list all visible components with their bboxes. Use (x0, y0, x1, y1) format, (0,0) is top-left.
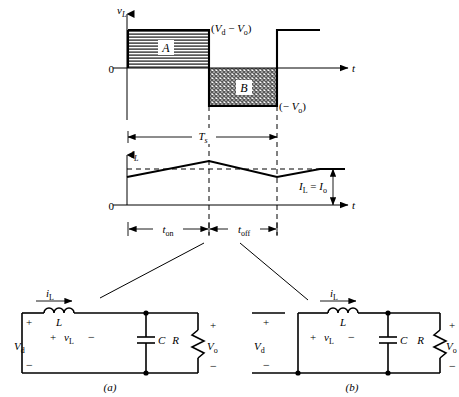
circuit-b-source-label: Vd (254, 340, 265, 355)
panel-inductor-current: Ts iL t 0 IL = Io (109, 128, 357, 238)
circuit-a-capacitor-label: C (158, 334, 166, 346)
circuit-b-resistor-label: R (416, 334, 424, 346)
circuit-b-vl-plus: + (310, 331, 316, 343)
voltage-axis-label-sub: L (121, 10, 127, 19)
area-a-label-group: A (158, 40, 174, 55)
circuit-a-output-plus: + (210, 319, 216, 331)
ton-label-group: ton (153, 221, 183, 238)
circuit-b-vl-label: vL (324, 331, 334, 346)
panel-inductor-voltage: vL t 0 (Vd − Vo) (− Vo) A B (109, 4, 357, 120)
circuit-a-caption: (a) (104, 381, 117, 394)
current-axis-label-sub: L (133, 154, 139, 163)
circuit-b-output-minus: − (449, 359, 456, 373)
circuit-b-vl-minus: − (348, 330, 355, 344)
circuit-b-source-plus: + (263, 316, 269, 328)
figure-svg: vL t 0 (Vd − Vo) (− Vo) A B (0, 0, 459, 397)
circuit-a-resistor-zigzag (192, 330, 204, 358)
circuit-b-source-minus: − (263, 358, 270, 372)
circuit-a-inductor-coil (44, 308, 74, 313)
voltage-axis-label: vL (117, 4, 127, 19)
leader-line-to-circuit-a (100, 243, 204, 298)
circuit-b-caption: (b) (346, 381, 359, 394)
circuit-a-current-label: iL (46, 287, 54, 302)
circuit-a: C R iL L + − Vd + vL − (14, 287, 218, 394)
voltage-high-level-label: (Vd − Vo) (211, 22, 252, 37)
area-a-label: A (161, 41, 170, 55)
current-zero-label: 0 (109, 200, 115, 212)
circuit-a-output-minus: − (210, 359, 217, 373)
circuit-b-output-label: Vo (446, 340, 457, 355)
circuit-a-source-plus: + (26, 316, 32, 328)
circuit-a-source-label: Vd (14, 340, 25, 355)
circuit-b-current-label: iL (330, 287, 338, 302)
area-b-label: B (240, 81, 248, 95)
circuit-b-node-bottom (385, 370, 390, 375)
current-time-axis-label: t (352, 199, 356, 211)
circuit-a-node-bottom (143, 370, 148, 375)
toff-label-group: toff (228, 221, 260, 238)
circuit-b-resistor-zigzag (434, 330, 446, 358)
circuit-a-inductor-label: L (55, 316, 62, 328)
circuit-b-inductor-coil (328, 308, 358, 313)
voltage-zero-label: 0 (109, 63, 115, 75)
circuit-a-vl-minus: − (88, 330, 95, 344)
circuit-a-vl-label: vL (64, 331, 74, 346)
circuit-a-source-minus: − (26, 358, 33, 372)
average-current-label: IL = Io (298, 180, 327, 195)
leader-line-to-circuit-b (240, 243, 308, 300)
circuit-a-resistor-label: R (171, 334, 179, 346)
circuit-a-output-label: Vo (207, 340, 218, 355)
circuit-b: C R iL L + − Vd + vL − (252, 287, 457, 394)
circuit-b-output-plus: + (449, 319, 455, 331)
circuit-b-inductor-label: L (339, 316, 346, 328)
period-label-group: Ts (192, 128, 216, 145)
voltage-low-level-label: (− Vo) (279, 100, 306, 115)
circuit-b-node-freewheel-bottom (295, 370, 300, 375)
voltage-time-axis-label: t (352, 62, 356, 74)
circuit-b-capacitor-label: C (400, 334, 408, 346)
area-b-label-group: B (236, 80, 252, 95)
current-axis-label: iL (131, 148, 139, 163)
figure-root: vL t 0 (Vd − Vo) (− Vo) A B (0, 0, 459, 397)
circuit-a-vl-plus: + (50, 331, 56, 343)
